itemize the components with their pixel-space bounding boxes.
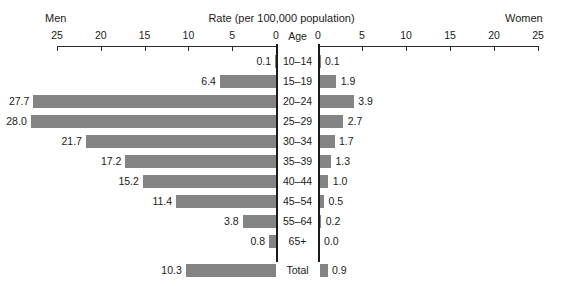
bar-men-30–34 — [86, 135, 276, 148]
bar-men-55–64 — [243, 215, 276, 228]
age-label-65+: 65+ — [277, 235, 318, 248]
bar-men-Total — [186, 264, 276, 277]
value-label-men-20–24: 27.7 — [9, 95, 29, 108]
bar-men-65+ — [269, 235, 276, 248]
chart-rows: 0.110–140.16.415–191.927.720–243.928.025… — [0, 52, 563, 281]
bar-women-55–64 — [320, 215, 322, 228]
chart-row: 6.415–191.9 — [0, 72, 563, 92]
age-label-10–14: 10–14 — [277, 55, 318, 68]
value-label-men-65+: 0.8 — [250, 235, 265, 248]
right-axis-tick-label-20: 20 — [488, 30, 500, 41]
value-label-men-40–44: 15.2 — [118, 175, 138, 188]
bar-women-45–54 — [320, 195, 324, 208]
value-label-men-35–39: 17.2 — [101, 155, 121, 168]
value-label-men-30–34: 21.7 — [61, 135, 81, 148]
value-label-men-Total: 10.3 — [161, 264, 181, 277]
chart-row: 11.445–540.5 — [0, 192, 563, 212]
age-label-25–29: 25–29 — [277, 115, 318, 128]
age-label-Total: Total — [277, 264, 318, 277]
value-label-women-65+: 0.0 — [324, 235, 339, 248]
value-label-men-25–29: 28.0 — [6, 115, 26, 128]
chart-row: 10.3Total0.9 — [0, 261, 563, 281]
value-label-women-10–14: 0.1 — [325, 55, 340, 68]
left-axis-line — [57, 46, 277, 47]
bar-men-25–29 — [31, 115, 276, 128]
value-label-women-20–24: 3.9 — [358, 95, 373, 108]
bar-men-20–24 — [33, 95, 276, 108]
bilateral-bar-chart: Men Rate (per 100,000 population) Women … — [0, 0, 563, 292]
value-label-men-10–14: 0.1 — [257, 55, 272, 68]
chart-row: 0.865+0.0 — [0, 232, 563, 252]
chart-row: 17.235–391.3 — [0, 152, 563, 172]
bar-women-25–29 — [320, 115, 344, 128]
bar-men-15–19 — [220, 75, 276, 88]
age-label-15–19: 15–19 — [277, 75, 318, 88]
left-axis-tick-label-25: 25 — [51, 30, 63, 41]
chart-row: 28.025–292.7 — [0, 112, 563, 132]
bar-women-40–44 — [320, 175, 329, 188]
age-label-55–64: 55–64 — [277, 215, 318, 228]
bar-women-35–39 — [320, 155, 331, 168]
right-axis-tick-label-25: 25 — [532, 30, 544, 41]
value-label-women-Total: 0.9 — [332, 264, 347, 277]
bar-women-10–14 — [320, 55, 321, 68]
age-label-35–39: 35–39 — [277, 155, 318, 168]
left-axis-tick-label-15: 15 — [139, 30, 151, 41]
chart-row: 21.730–341.7 — [0, 132, 563, 152]
chart-row: 27.720–243.9 — [0, 92, 563, 112]
value-label-men-55–64: 3.8 — [224, 215, 239, 228]
value-label-men-45–54: 11.4 — [152, 195, 172, 208]
value-label-men-15–19: 6.4 — [201, 75, 216, 88]
right-axis-tick-label-5: 5 — [359, 30, 365, 41]
right-axis-tick-label-10: 10 — [400, 30, 412, 41]
value-label-women-40–44: 1.0 — [333, 175, 348, 188]
age-label-40–44: 40–44 — [277, 175, 318, 188]
value-label-women-25–29: 2.7 — [348, 115, 363, 128]
right-axis-tick-label-15: 15 — [444, 30, 456, 41]
age-label-20–24: 20–24 — [277, 95, 318, 108]
value-label-women-35–39: 1.3 — [335, 155, 350, 168]
value-label-women-30–34: 1.7 — [339, 135, 354, 148]
right-axis-tick-mark-25 — [538, 46, 539, 51]
chart-title: Rate (per 100,000 population) — [0, 12, 563, 24]
bar-women-Total — [320, 264, 328, 277]
value-label-women-55–64: 0.2 — [326, 215, 341, 228]
age-label-45–54: 45–54 — [277, 195, 318, 208]
left-axis-tick-label-20: 20 — [95, 30, 107, 41]
left-axis-tick-label-5: 5 — [229, 30, 235, 41]
value-label-women-15–19: 1.9 — [341, 75, 356, 88]
age-label-30–34: 30–34 — [277, 135, 318, 148]
left-axis-tick-label-10: 10 — [183, 30, 195, 41]
chart-row: 3.855–640.2 — [0, 212, 563, 232]
age-column-header: Age — [277, 30, 318, 43]
chart-row: 0.110–140.1 — [0, 52, 563, 72]
chart-row: 15.240–441.0 — [0, 172, 563, 192]
bar-men-45–54 — [176, 195, 276, 208]
value-label-women-45–54: 0.5 — [328, 195, 343, 208]
right-axis-line — [318, 46, 538, 47]
bar-men-10–14 — [275, 55, 276, 68]
bar-men-35–39 — [125, 155, 276, 168]
bar-men-40–44 — [143, 175, 276, 188]
bar-women-20–24 — [320, 95, 354, 108]
bar-women-30–34 — [320, 135, 335, 148]
women-group-label: Women — [505, 12, 543, 24]
bar-women-15–19 — [320, 75, 337, 88]
